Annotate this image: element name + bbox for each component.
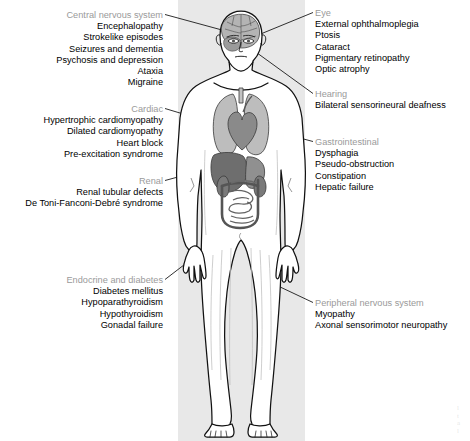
callout-item: Pseudo-obstruction <box>315 159 467 170</box>
callout-item: Pigmentary retinopathy <box>315 53 467 64</box>
callout-item: Psychosis and depression <box>6 55 163 66</box>
callout-heading-renal: Renal <box>0 176 163 187</box>
callout-item: Migraine <box>6 77 163 88</box>
callout-cardiac: Cardiac Hypertrophic cardiomyopathy Dila… <box>6 104 163 160</box>
callout-heading-cardiac: Cardiac <box>6 104 163 115</box>
callout-item: Optic atrophy <box>315 64 467 75</box>
callout-item: Hypoparathyroidism <box>6 297 163 308</box>
mitochondrial-disease-diagram: Central nervous system Encephalopathy St… <box>0 0 470 441</box>
callout-heading-hearing: Hearing <box>315 89 467 100</box>
callout-item: De Toni-Fanconi-Debré syndrome <box>0 198 163 209</box>
callout-item: Ptosis <box>315 30 467 41</box>
callout-item: Myopathy <box>315 309 470 320</box>
corner-mark-line: l <box>457 428 467 436</box>
callout-peripheral-nervous-system: Peripheral nervous system Myopathy Axona… <box>315 298 470 332</box>
callout-item: Renal tubular defects <box>0 187 163 198</box>
callout-heading-pns: Peripheral nervous system <box>315 298 470 309</box>
callout-item: Seizures and dementia <box>6 44 163 55</box>
callout-heading-eye: Eye <box>315 8 467 19</box>
callout-endocrine-and-diabetes: Endocrine and diabetes Diabetes mellitus… <box>6 275 163 331</box>
callout-item: Hypertrophic cardiomyopathy <box>6 115 163 126</box>
callout-gastrointestinal: Gastrointestinal Dysphagia Pseudo-obstru… <box>315 137 467 193</box>
eye-right <box>243 39 254 44</box>
callout-item: Cataract <box>315 42 467 53</box>
callout-item: Constipation <box>315 171 467 182</box>
callout-item: Gonadal failure <box>6 320 163 331</box>
callout-item: Pre-excitation syndrome <box>6 149 163 160</box>
right-foot <box>248 424 277 437</box>
left-foot <box>205 424 234 437</box>
callout-item: Bilateral sensorineural deafness <box>315 100 467 111</box>
torso-and-limbs <box>177 11 306 427</box>
callout-heading-cns: Central nervous system <box>6 10 163 21</box>
callout-eye: Eye External ophthalmoplegia Ptosis Cata… <box>315 8 467 75</box>
callout-central-nervous-system: Central nervous system Encephalopathy St… <box>6 10 163 88</box>
trachea <box>239 88 243 103</box>
body-figure <box>177 11 306 437</box>
corner-watermark: l t a l <box>457 405 467 435</box>
callout-heading-endocrine: Endocrine and diabetes <box>6 275 163 286</box>
callout-item: Dysphagia <box>315 148 467 159</box>
callout-item: Dilated cardiomyopathy <box>6 126 163 137</box>
callout-item: Heart block <box>6 138 163 149</box>
callout-item: Axonal sensorimotor neuropathy <box>315 320 470 331</box>
callout-item: External ophthalmoplegia <box>315 19 467 30</box>
callout-item: Hepatic failure <box>315 182 467 193</box>
callout-item: Encephalopathy <box>6 21 163 32</box>
callout-renal: Renal Renal tubular defects De Toni-Fanc… <box>0 176 163 210</box>
callout-heading-gastrointestinal: Gastrointestinal <box>315 137 467 148</box>
callout-item: Hypothyroidism <box>6 309 163 320</box>
callout-item: Ataxia <box>6 66 163 77</box>
callout-hearing: Hearing Bilateral sensorineural deafness <box>315 89 467 111</box>
callout-item: Strokelike episodes <box>6 32 163 43</box>
callout-item: Diabetes mellitus <box>6 286 163 297</box>
eye-left <box>228 39 239 44</box>
